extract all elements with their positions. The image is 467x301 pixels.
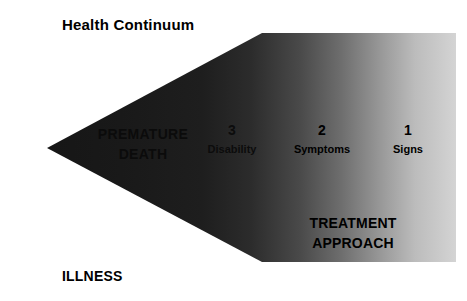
- treatment-approach-label: TREATMENT APPROACH: [292, 213, 414, 253]
- stage-symptoms-number: 2: [272, 122, 372, 138]
- stage-signs: 1 Signs: [358, 122, 458, 157]
- health-continuum-figure: Health Continuum PREMATURE DEATH 3 Disab…: [0, 0, 467, 301]
- stage-symptoms: 2 Symptoms: [272, 122, 372, 157]
- treatment-approach-line2: APPROACH: [292, 233, 414, 253]
- stage-symptoms-label: Symptoms: [272, 141, 372, 157]
- stage-disability: 3 Disability: [182, 122, 282, 157]
- illness-label: ILLNESS: [62, 268, 123, 284]
- stage-signs-label: Signs: [358, 141, 458, 157]
- treatment-approach-line1: TREATMENT: [292, 213, 414, 233]
- stage-disability-number: 3: [182, 122, 282, 138]
- stage-signs-number: 1: [358, 122, 458, 138]
- stage-disability-label: Disability: [182, 141, 282, 157]
